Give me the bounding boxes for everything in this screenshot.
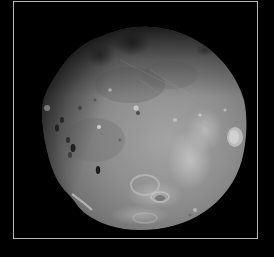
phobos-photo <box>0 0 274 257</box>
moon-body <box>30 20 260 240</box>
